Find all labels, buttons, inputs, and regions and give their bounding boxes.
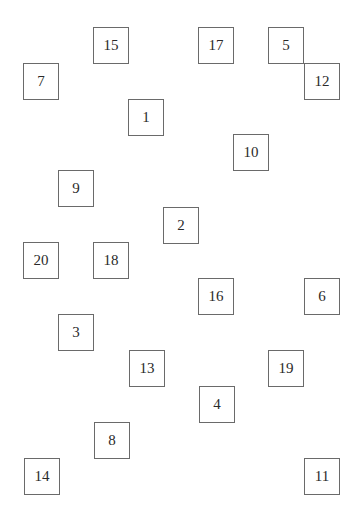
box-label: 8: [108, 432, 116, 449]
box-2: 2: [163, 207, 199, 244]
box-8: 8: [94, 422, 130, 459]
box-3: 3: [58, 314, 94, 351]
box-17: 17: [198, 27, 234, 64]
box-7: 7: [23, 63, 59, 100]
box-9: 9: [58, 170, 94, 207]
box-label: 15: [104, 37, 119, 54]
box-11: 11: [304, 458, 340, 495]
box-label: 16: [209, 288, 224, 305]
box-20: 20: [23, 242, 59, 279]
box-label: 12: [315, 73, 330, 90]
box-19: 19: [268, 350, 304, 387]
box-label: 18: [104, 252, 119, 269]
box-16: 16: [198, 278, 234, 315]
box-15: 15: [93, 27, 129, 64]
box-label: 11: [315, 468, 329, 485]
box-label: 3: [72, 324, 80, 341]
box-6: 6: [304, 278, 340, 315]
box-13: 13: [129, 350, 165, 387]
box-label: 13: [140, 360, 155, 377]
box-label: 7: [37, 73, 45, 90]
box-5: 5: [268, 27, 304, 64]
box-label: 6: [318, 288, 326, 305]
box-label: 14: [35, 468, 50, 485]
box-label: 5: [282, 37, 290, 54]
box-label: 4: [213, 396, 221, 413]
box-label: 9: [72, 180, 80, 197]
box-18: 18: [93, 242, 129, 279]
box-label: 19: [279, 360, 294, 377]
box-label: 17: [209, 37, 224, 54]
box-14: 14: [24, 458, 60, 495]
box-label: 2: [177, 217, 185, 234]
box-label: 1: [142, 109, 150, 126]
box-10: 10: [233, 134, 269, 171]
box-12: 12: [304, 63, 340, 100]
box-4: 4: [199, 386, 235, 423]
box-1: 1: [128, 99, 164, 136]
box-label: 10: [244, 144, 259, 161]
box-label: 20: [34, 252, 49, 269]
